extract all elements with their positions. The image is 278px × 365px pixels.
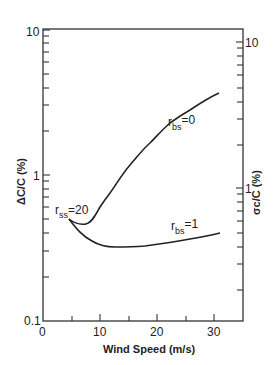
right-y-ticks: [236, 42, 243, 290]
y-axis-right-label: σc/C (%): [250, 170, 262, 215]
y-axis-left-label: ΔC/C (%): [15, 158, 27, 205]
x-tick-0: 0: [39, 325, 46, 339]
chart: 10 1 0.1 10 1 0 10 20 30 Wind Speed (m/s…: [0, 0, 278, 365]
annotation-rbs-0: rbs=0: [168, 113, 196, 132]
x-tick-20: 20: [150, 325, 164, 339]
plot-frame: [43, 29, 243, 321]
x-axis-label: Wind Speed (m/s): [103, 343, 196, 355]
x-ticks: [72, 314, 214, 321]
left-y-ticks: [43, 30, 50, 277]
y-tick-10: 10: [26, 25, 40, 39]
y-tick-1: 1: [33, 169, 40, 183]
x-tick-30: 30: [207, 325, 221, 339]
annotation-rss: rss=20: [55, 203, 89, 220]
x-tick-10: 10: [93, 325, 107, 339]
annotation-rbs-1: rbs=1: [171, 217, 199, 236]
y-right-tick-10: 10: [245, 36, 259, 50]
series-rbs-0: [69, 93, 219, 224]
